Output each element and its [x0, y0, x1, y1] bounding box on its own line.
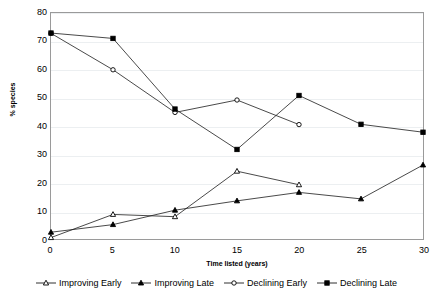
y-axis-tick-label: 30	[7, 150, 47, 159]
legend-label: Improving Early	[59, 278, 122, 288]
x-axis-tick-label: 15	[217, 246, 257, 255]
line-chart: % species 01020304050607080 051015202530…	[0, 0, 433, 302]
data-point-open-circle	[235, 98, 239, 102]
y-axis-tick-label: 70	[7, 36, 47, 45]
legend-item[interactable]: Improving Late	[131, 278, 214, 288]
legend-item[interactable]: Improving Early	[36, 278, 122, 288]
y-axis-tick-label: 60	[7, 65, 47, 74]
x-axis-tick-label: 25	[342, 246, 382, 255]
data-point-open-circle	[111, 68, 115, 72]
y-axis-tick-label: 50	[7, 93, 47, 102]
legend-marker-open-triangle-icon	[36, 278, 56, 288]
data-point-filled-triangle	[420, 162, 425, 167]
legend-item[interactable]: Declining Early	[224, 278, 307, 288]
x-axis-tick-label: 20	[279, 246, 319, 255]
y-axis-tick-label: 80	[7, 8, 47, 17]
data-point-open-triangle	[234, 168, 239, 173]
data-point-open-triangle	[110, 212, 115, 217]
x-axis-tick-label: 0	[30, 246, 70, 255]
data-point-filled-square	[421, 130, 425, 134]
data-point-filled-square	[49, 31, 53, 35]
data-point-filled-square	[359, 122, 363, 126]
data-point-filled-square	[297, 93, 301, 97]
data-point-open-circle	[232, 281, 236, 285]
legend-label: Declining Early	[247, 278, 307, 288]
y-axis-tick-label: 0	[7, 236, 47, 245]
legend-marker-filled-triangle-icon	[131, 278, 151, 288]
legend-marker-filled-square-icon	[317, 278, 337, 288]
data-point-filled-square	[111, 36, 115, 40]
data-point-filled-square	[235, 147, 239, 151]
data-point-filled-square	[325, 281, 329, 285]
series-lines-layer	[51, 13, 423, 239]
y-axis-tick-label: 40	[7, 122, 47, 131]
legend-label: Declining Late	[340, 278, 397, 288]
y-axis-tick-label: 20	[7, 179, 47, 188]
series-line-3	[51, 33, 423, 149]
x-axis-tick-label: 10	[155, 246, 195, 255]
chart-legend: Improving EarlyImproving LateDeclining E…	[0, 278, 433, 288]
data-point-filled-triangle	[296, 190, 301, 195]
x-axis-tick-label: 5	[92, 246, 132, 255]
legend-label: Improving Late	[154, 278, 214, 288]
y-axis-tick-label: 10	[7, 207, 47, 216]
legend-item[interactable]: Declining Late	[317, 278, 397, 288]
data-point-filled-square	[173, 107, 177, 111]
data-point-open-circle	[297, 122, 301, 126]
x-axis-title: Time listed (years)	[50, 260, 424, 267]
x-axis-tick-label: 30	[404, 246, 433, 255]
plot-area	[50, 12, 424, 240]
legend-marker-open-circle-icon	[224, 278, 244, 288]
